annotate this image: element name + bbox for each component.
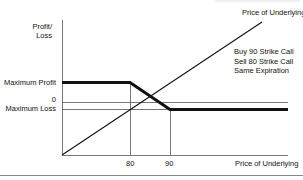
- y-axis-title: Profit/ Loss: [20, 22, 52, 40]
- payoff-line: [62, 83, 288, 110]
- max-loss-label: Maximum Loss: [0, 104, 56, 113]
- max-profit-label: Maximum Profit: [0, 78, 56, 87]
- strategy-note-line1: Buy 90 Strike Call: [234, 47, 294, 57]
- underlying-price-line: [62, 22, 262, 155]
- y-axis-title-line2: Loss: [20, 31, 52, 40]
- strike-90-label: 90: [165, 159, 173, 168]
- zero-label: 0: [0, 95, 56, 104]
- strike-80-label: 80: [126, 159, 134, 168]
- diagonal-title: Price of Underlying: [242, 8, 303, 17]
- y-axis-title-line1: Profit/: [20, 22, 52, 31]
- strategy-note-line2: Sell 80 Strike Call: [234, 57, 294, 67]
- x-axis-title: Price of Underlying: [235, 159, 298, 168]
- strategy-note-line3: Same Expiration: [234, 66, 294, 76]
- strategy-note: Buy 90 Strike Call Sell 80 Strike Call S…: [234, 47, 294, 76]
